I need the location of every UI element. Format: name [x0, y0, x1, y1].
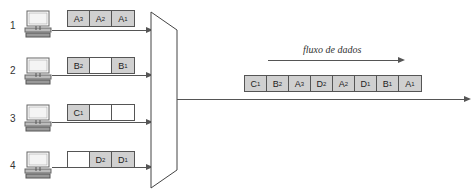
output-slot: D2	[311, 76, 333, 91]
slot: D1	[112, 152, 134, 167]
output-slot: B2	[267, 76, 289, 91]
arrowhead-icon	[398, 57, 405, 63]
input-line-1	[52, 30, 146, 31]
slot: D2	[90, 152, 112, 167]
slot: A3	[68, 11, 90, 26]
output-slot: A2	[333, 76, 355, 91]
slot-empty	[90, 58, 112, 73]
slot-empty	[90, 105, 112, 120]
station-number-1: 1	[10, 20, 16, 31]
station-number-3: 3	[10, 113, 16, 124]
input-line-2	[52, 75, 146, 76]
station-number-2: 2	[10, 65, 16, 76]
output-slot: C1	[245, 76, 267, 91]
slot: B2	[68, 58, 90, 73]
input-line-3	[52, 122, 146, 123]
output-slot: D1	[355, 76, 377, 91]
output-slot: A3	[289, 76, 311, 91]
flow-arrow-line	[268, 60, 398, 61]
output-slot: A1	[399, 76, 421, 91]
input-buffer-4: D2 D1	[67, 151, 135, 168]
slot: C1	[68, 105, 90, 120]
computer-icon	[24, 104, 54, 134]
computer-icon	[24, 10, 54, 40]
computer-icon	[24, 151, 54, 181]
arrowhead-icon	[464, 96, 471, 102]
station-number-4: 4	[10, 160, 16, 171]
input-buffer-2: B2 B1	[67, 57, 135, 74]
output-stream: C1 B2 A3 D2 A2 D1 B1 A1	[244, 75, 422, 92]
slot-empty	[112, 105, 134, 120]
input-buffer-3: C1	[67, 104, 135, 121]
multiplexer	[150, 10, 180, 190]
slot: A2	[90, 11, 112, 26]
slot: B1	[112, 58, 134, 73]
input-line-4	[52, 167, 146, 168]
flow-label: fluxo de dados	[303, 44, 361, 55]
output-line	[177, 99, 465, 100]
input-buffer-1: A3 A2 A1	[67, 10, 135, 27]
computer-icon	[24, 57, 54, 87]
slot: A1	[112, 11, 134, 26]
slot-empty	[68, 152, 90, 167]
output-slot: B1	[377, 76, 399, 91]
